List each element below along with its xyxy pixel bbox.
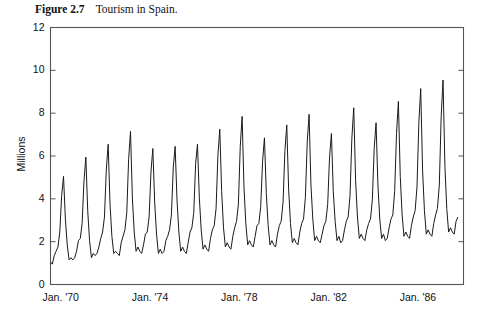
y-tick-label: 12 bbox=[19, 21, 45, 33]
x-tick-label: Jan. '86 bbox=[400, 291, 436, 303]
chart-plot-area: Millions 024681012 Jan. '70Jan. '74Jan. … bbox=[0, 0, 479, 321]
y-tick-label: 6 bbox=[19, 149, 45, 161]
figure-container: Figure 2.7Tourism in Spain. Millions 024… bbox=[0, 0, 479, 321]
x-tick-label: Jan. '74 bbox=[132, 291, 168, 303]
x-tick-label: Jan. '82 bbox=[310, 291, 346, 303]
chart-svg bbox=[0, 0, 479, 321]
y-tick-label: 8 bbox=[19, 106, 45, 118]
y-tick-label: 0 bbox=[19, 278, 45, 290]
data-series-line bbox=[51, 80, 458, 264]
x-tick-label: Jan. '78 bbox=[221, 291, 257, 303]
y-tick-label: 10 bbox=[19, 63, 45, 75]
series-path-tourists bbox=[51, 80, 458, 264]
x-tick-label: Jan. '70 bbox=[43, 291, 79, 303]
y-tick-label: 2 bbox=[19, 235, 45, 247]
y-tick-label: 4 bbox=[19, 192, 45, 204]
